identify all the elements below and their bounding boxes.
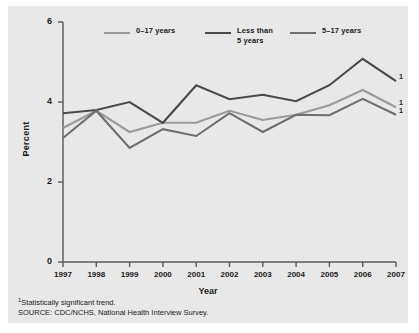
figure-page: 0–17 years Less than 5 years 5–17 years … bbox=[0, 0, 419, 333]
end-marker-series-1: 1 bbox=[399, 73, 403, 80]
x-tick-label-2005: 2005 bbox=[314, 270, 344, 279]
y-axis-title: Percent bbox=[21, 109, 31, 169]
x-tick-label-2007: 2007 bbox=[381, 270, 411, 279]
x-tick-label-2001: 2001 bbox=[181, 270, 211, 279]
end-marker-series-2: 1 bbox=[399, 107, 403, 114]
footnote-source: SOURCE: CDC/NCHS, National Health Interv… bbox=[18, 308, 348, 318]
footnote-significance: 1Statistically significant trend. bbox=[18, 298, 348, 308]
x-tick-label-2004: 2004 bbox=[281, 270, 311, 279]
footnotes: 1Statistically significant trend. SOURCE… bbox=[18, 298, 348, 318]
y-tick-label-6: 6 bbox=[36, 16, 52, 26]
y-tick-label-2: 2 bbox=[36, 176, 52, 186]
y-tick-label-4: 4 bbox=[36, 96, 52, 106]
x-tick-label-2003: 2003 bbox=[248, 270, 278, 279]
x-tick-label-1998: 1998 bbox=[81, 270, 111, 279]
x-tick-label-1999: 1999 bbox=[115, 270, 145, 279]
x-tick-label-2002: 2002 bbox=[215, 270, 245, 279]
x-axis-title: Year bbox=[8, 286, 408, 296]
footnote-significance-text: Statistically significant trend. bbox=[21, 298, 115, 307]
y-tick-label-0: 0 bbox=[36, 256, 52, 266]
x-tick-label-2000: 2000 bbox=[148, 270, 178, 279]
x-tick-label-2006: 2006 bbox=[348, 270, 378, 279]
x-tick-label-1997: 1997 bbox=[48, 270, 78, 279]
end-marker-series-0: 1 bbox=[399, 99, 403, 106]
chart-panel: 0–17 years Less than 5 years 5–17 years … bbox=[8, 6, 408, 323]
